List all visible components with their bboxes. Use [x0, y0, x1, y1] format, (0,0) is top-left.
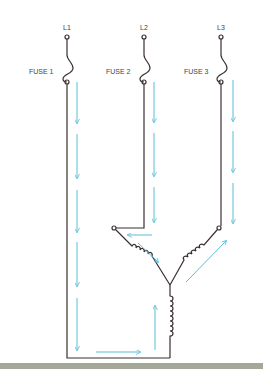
label-l1: L1 [63, 24, 71, 31]
circuit-diagram [0, 0, 263, 382]
label-fuse-2: FUSE 2 [106, 68, 131, 75]
label-fuse-3: FUSE 3 [184, 68, 209, 75]
fuse-1-icon [63, 39, 73, 82]
fuse-2-icon [140, 39, 150, 82]
terminal-l2 [142, 35, 146, 39]
current-arrows [77, 80, 233, 352]
label-l2: L2 [140, 24, 148, 31]
terminal-l3 [219, 35, 223, 39]
coil-a-terminal [112, 226, 116, 230]
coil-c-icon [170, 285, 173, 358]
terminal-l1 [65, 35, 69, 39]
coil-b-terminal [217, 226, 221, 230]
label-l3: L3 [217, 24, 225, 31]
ground-bar [0, 363, 263, 369]
fuse-3-icon [217, 39, 227, 82]
label-fuse-1: FUSE 1 [29, 68, 54, 75]
coil-c [170, 285, 173, 358]
coil-a-icon [116, 230, 170, 285]
